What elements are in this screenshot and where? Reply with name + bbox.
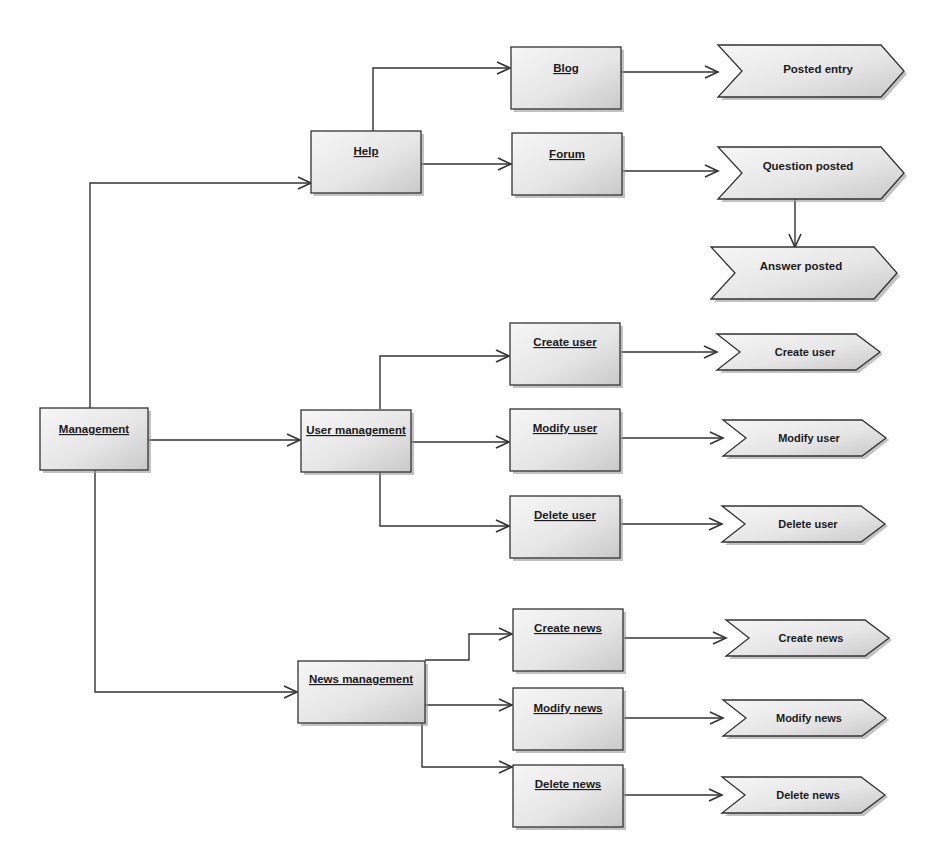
node-modify-user[interactable]: Modify user bbox=[510, 409, 623, 474]
event-modify-user[interactable]: Modify user bbox=[723, 420, 889, 459]
event-question-posted[interactable]: Question posted bbox=[718, 147, 907, 202]
edge-news-management-create-news bbox=[425, 634, 512, 660]
edge-management-help bbox=[90, 183, 311, 408]
connectors bbox=[90, 68, 795, 795]
event-delete-news[interactable]: Delete news bbox=[722, 777, 888, 816]
event-modify-news[interactable]: Modify news bbox=[723, 700, 889, 739]
event-label: Modify user bbox=[778, 432, 840, 444]
process-diagram: Management Help Blog Forum User manageme… bbox=[0, 0, 929, 863]
node-help[interactable]: Help bbox=[311, 131, 424, 196]
event-delete-user[interactable]: Delete user bbox=[722, 506, 888, 545]
event-label: Answer posted bbox=[760, 260, 842, 272]
event-label: Delete user bbox=[778, 518, 838, 530]
event-label: Create news bbox=[779, 632, 844, 644]
node-modify-news[interactable]: Modify news bbox=[513, 688, 626, 753]
node-create-user[interactable]: Create user bbox=[510, 323, 623, 388]
node-label: Modify user bbox=[533, 422, 598, 434]
node-label: Delete news bbox=[535, 778, 601, 790]
event-label: Question posted bbox=[763, 160, 854, 172]
node-label: Delete user bbox=[534, 509, 597, 521]
node-management[interactable]: Management bbox=[40, 408, 151, 473]
node-user-management[interactable]: User management bbox=[301, 410, 414, 475]
node-label: Modify news bbox=[533, 702, 602, 714]
node-label: Blog bbox=[553, 62, 579, 74]
node-delete-user[interactable]: Delete user bbox=[510, 496, 623, 561]
event-label: Create user bbox=[775, 346, 836, 358]
node-news-management[interactable]: News management bbox=[298, 661, 428, 726]
edge-news-management-delete-news bbox=[422, 722, 512, 767]
event-label: Delete news bbox=[776, 789, 840, 801]
node-label: News management bbox=[309, 673, 413, 685]
node-label: Forum bbox=[549, 148, 585, 160]
edge-help-blog bbox=[373, 68, 510, 131]
node-label: Create news bbox=[534, 622, 602, 634]
event-label: Modify news bbox=[776, 712, 842, 724]
node-label: User management bbox=[306, 424, 406, 436]
edge-user-management-delete-user bbox=[380, 472, 509, 526]
activity-boxes: Management Help Blog Forum User manageme… bbox=[40, 47, 626, 830]
edge-management-news-management bbox=[95, 470, 297, 692]
event-create-user[interactable]: Create user bbox=[717, 334, 883, 373]
edge-user-management-create-user bbox=[380, 356, 509, 409]
node-create-news[interactable]: Create news bbox=[513, 609, 626, 674]
node-label: Create user bbox=[533, 336, 597, 348]
node-blog[interactable]: Blog bbox=[511, 47, 624, 112]
node-label: Management bbox=[59, 423, 129, 435]
event-label: Posted entry bbox=[783, 63, 853, 75]
event-create-news[interactable]: Create news bbox=[726, 620, 892, 659]
node-delete-news[interactable]: Delete news bbox=[513, 765, 626, 830]
event-shapes: Posted entry Question posted Answer post… bbox=[711, 45, 907, 816]
node-forum[interactable]: Forum bbox=[512, 133, 625, 198]
node-label: Help bbox=[354, 145, 379, 157]
event-posted-entry[interactable]: Posted entry bbox=[718, 45, 907, 100]
event-answer-posted[interactable]: Answer posted bbox=[711, 247, 900, 302]
